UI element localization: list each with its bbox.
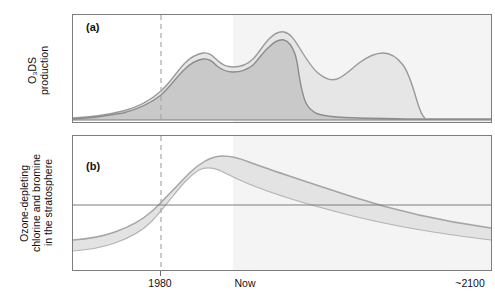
panel-b-y-axis-label-line3: in the stratosphere	[42, 160, 54, 247]
panel-b-plot	[73, 136, 491, 270]
xtick-2100: ~2100	[455, 277, 485, 289]
panel-a-y-axis-label-line1: O₃DS	[26, 56, 38, 83]
panel-a-tag: (a)	[86, 21, 99, 33]
xtick-mark-1980	[160, 271, 161, 276]
panel-a-y-axis-label: O₃DS production	[26, 22, 50, 118]
panel-b-y-axis-label-line1: Ozone-depleting	[18, 164, 30, 241]
panel-b-tag: (b)	[86, 160, 100, 172]
panel-a-y-axis-label-line2: production	[38, 45, 50, 94]
xtick-1980: 1980	[148, 277, 171, 289]
panel-a-frame	[72, 14, 492, 123]
xtick-now: Now	[234, 277, 255, 289]
figure-canvas: (a) (b) O₃DS production Ozone-depleting …	[0, 0, 495, 302]
panel-a-plot	[73, 15, 491, 122]
panel-b-y-axis-label-line2: chlorine and bromine	[30, 154, 42, 252]
panel-b-y-axis-label: Ozone-depleting chlorine and bromine in …	[18, 139, 54, 267]
panel-b-frame	[72, 135, 492, 271]
